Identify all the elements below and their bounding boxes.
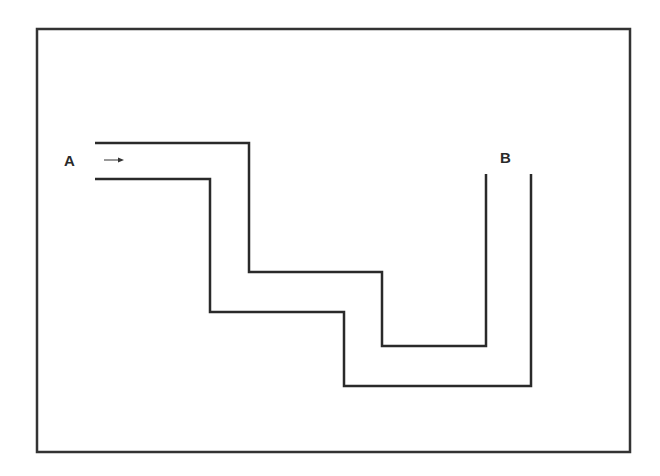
pipe-outer-wall bbox=[95, 143, 486, 346]
pipe-inner-wall bbox=[95, 174, 531, 386]
start-label: A bbox=[64, 152, 75, 169]
end-label: B bbox=[500, 149, 511, 166]
pipe-diagram bbox=[0, 0, 660, 476]
flow-arrow-icon bbox=[104, 158, 124, 163]
diagram-frame bbox=[37, 29, 630, 452]
